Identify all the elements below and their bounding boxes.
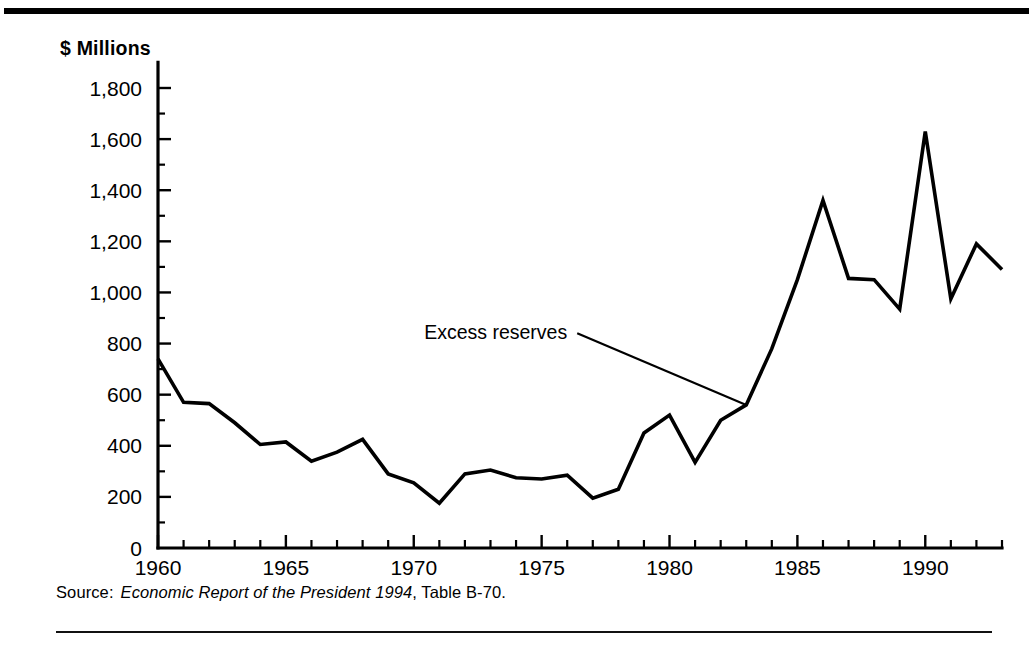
y-tick-label: 1,600 — [89, 128, 142, 151]
y-tick-label: 1,000 — [89, 281, 142, 304]
plot-area: 02004006008001,0001,2001,4001,6001,800 1… — [0, 18, 1033, 578]
bottom-rule-divider — [56, 631, 992, 633]
y-tick-label: 1,200 — [89, 230, 142, 253]
x-tick-label: 1965 — [263, 556, 310, 578]
annotation-group: Excess reserves — [424, 321, 746, 405]
x-tick-label: 1990 — [902, 556, 949, 578]
y-tick-label: 1,800 — [89, 77, 142, 100]
y-tick-label: 400 — [107, 434, 142, 457]
source-table-reference: , Table B-70. — [412, 583, 506, 601]
x-tick-label: 1970 — [390, 556, 437, 578]
x-tick-label: 1960 — [135, 556, 182, 578]
series-line-excess-reserves — [158, 131, 1002, 503]
x-tick-label: 1980 — [646, 556, 693, 578]
top-rule-divider — [4, 8, 1029, 14]
x-tick-label: 1985 — [774, 556, 821, 578]
annotation-leader-line — [577, 333, 746, 405]
y-axis: 02004006008001,0001,2001,4001,6001,800 — [89, 62, 171, 559]
annotation-label-excess-reserves: Excess reserves — [424, 321, 567, 343]
y-tick-label: 600 — [107, 383, 142, 406]
y-tick-label: 200 — [107, 485, 142, 508]
figure-container: 02004006008001,0001,2001,4001,6001,800 1… — [0, 0, 1033, 646]
y-tick-label: 800 — [107, 332, 142, 355]
x-axis: 1960196519701975198019851990 — [135, 535, 1002, 578]
y-axis-title: $ Millions — [60, 37, 151, 59]
source-label: Source: — [56, 583, 114, 601]
source-publication-title: Economic Report of the President 1994 — [121, 583, 413, 601]
source-note: Source:Economic Report of the President … — [56, 583, 506, 602]
data-series-group — [158, 131, 1002, 503]
line-chart-svg: 02004006008001,0001,2001,4001,6001,800 1… — [0, 18, 1033, 578]
x-tick-label: 1975 — [518, 556, 565, 578]
y-tick-label: 1,400 — [89, 179, 142, 202]
